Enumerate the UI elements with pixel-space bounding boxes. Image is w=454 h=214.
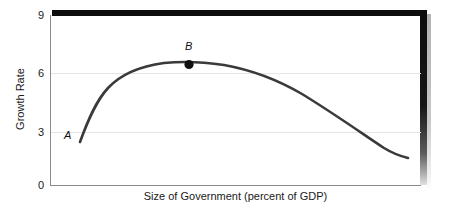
- growth-rate-chart-figure: 9 6 3 0 Growth Rate Size of Government (…: [0, 0, 454, 214]
- point-a-label: A: [64, 130, 71, 141]
- point-b-marker: [184, 60, 193, 69]
- curve-layer: [0, 0, 454, 214]
- point-b-label: B: [185, 41, 192, 52]
- growth-rate-curve: [80, 62, 408, 158]
